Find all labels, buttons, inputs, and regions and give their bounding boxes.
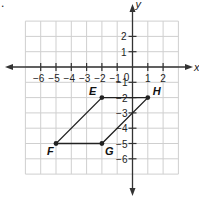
coordinate-plane: xy−6−5−4−3−2−112021−1−2−3−4−5−6EHFG xyxy=(0,0,199,198)
x-tick-label: −4 xyxy=(64,73,76,84)
x-tick-label: −5 xyxy=(48,73,60,84)
y-tick-label: −5 xyxy=(116,139,128,150)
point-label-g: G xyxy=(105,145,114,157)
y-tick-label: −2 xyxy=(116,93,128,104)
y-tick-label: 1 xyxy=(121,47,127,58)
point-label-h: H xyxy=(153,85,162,97)
point-label-e: E xyxy=(89,85,97,97)
x-axis-right-arrow-icon xyxy=(185,64,193,70)
x-tick-label: −3 xyxy=(79,73,91,84)
x-tick-label: 1 xyxy=(145,73,151,84)
x-tick-label: 2 xyxy=(160,73,166,84)
y-tick-label: −4 xyxy=(116,123,128,134)
point-e xyxy=(100,95,105,100)
x-tick-label: −6 xyxy=(33,73,45,84)
point-g xyxy=(100,141,105,146)
problem-marker: . xyxy=(1,0,4,10)
x-axis-label: x xyxy=(193,61,199,73)
x-axis-left-arrow-icon xyxy=(5,64,13,70)
y-tick-label: −6 xyxy=(116,154,128,165)
point-label-f: F xyxy=(47,145,54,157)
point-h xyxy=(145,95,150,100)
y-axis-down-arrow-icon xyxy=(130,188,136,196)
y-tick-label: −1 xyxy=(116,77,128,88)
x-tick-label: −2 xyxy=(94,73,106,84)
y-tick-label: −3 xyxy=(116,108,128,119)
y-axis-label: y xyxy=(135,0,143,10)
y-tick-label: 2 xyxy=(121,31,127,42)
point-f xyxy=(54,141,59,146)
